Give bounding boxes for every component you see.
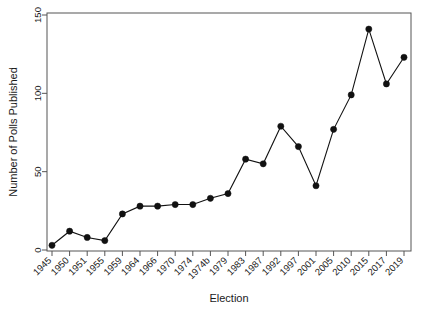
x-tick-label: 1945 [31, 255, 54, 278]
x-tick-label: 2001 [295, 255, 318, 278]
data-point [278, 123, 284, 129]
x-tick-label: 2005 [312, 255, 335, 278]
x-tick-label: 1970 [154, 255, 177, 278]
x-tick-label: 1951 [66, 255, 89, 278]
plot-frame [47, 13, 411, 251]
y-tick-label: 150 [32, 7, 43, 23]
x-axis-tick-labels: 1945195019511955195919641966197019741974… [31, 255, 406, 281]
x-tick-label: 1992 [259, 255, 282, 278]
data-point [67, 228, 73, 234]
chart-figure: Number of Polls Published Election 05010… [0, 0, 425, 315]
x-tick-label: 2019 [383, 255, 406, 278]
x-tick-label: 1983 [224, 255, 247, 278]
y-tick-label: 100 [32, 85, 43, 101]
data-point [331, 126, 337, 132]
data-point [49, 242, 55, 248]
data-point [102, 238, 108, 244]
x-tick-label: 1964 [119, 255, 142, 278]
data-point [383, 81, 389, 87]
data-point [172, 201, 178, 207]
y-axis-title: Number of Polls Published [7, 67, 19, 197]
data-point [313, 183, 319, 189]
data-point [401, 54, 407, 60]
y-axis-tick-labels: 050100150 [32, 7, 43, 253]
y-axis-ticks [42, 15, 47, 250]
data-point [366, 26, 372, 32]
data-point [119, 211, 125, 217]
data-point [190, 201, 196, 207]
data-point [84, 234, 90, 240]
x-axis-title: Election [209, 292, 248, 304]
data-point [225, 191, 231, 197]
data-point [243, 156, 249, 162]
series-line-polls [52, 29, 404, 245]
x-tick-label: 1987 [242, 255, 265, 278]
x-tick-label: 1959 [101, 255, 124, 278]
data-point [348, 92, 354, 98]
x-tick-label: 1950 [48, 255, 71, 278]
data-point [295, 144, 301, 150]
y-tick-label: 50 [32, 166, 43, 177]
x-tick-label: 1979 [207, 255, 230, 278]
x-tick-label: 1955 [83, 255, 106, 278]
series-points-polls [49, 26, 407, 248]
data-point [137, 203, 143, 209]
data-point [207, 195, 213, 201]
data-point [155, 203, 161, 209]
x-tick-label: 2010 [330, 255, 353, 278]
x-tick-label: 1997 [277, 255, 300, 278]
data-point [260, 161, 266, 167]
x-tick-label: 2015 [347, 255, 370, 278]
y-tick-label: 0 [32, 247, 43, 252]
x-axis-ticks [52, 251, 404, 256]
polls-published-line-chart: Number of Polls Published Election 05010… [0, 0, 425, 315]
x-tick-label: 2017 [365, 255, 388, 278]
x-tick-label: 1966 [136, 255, 159, 278]
